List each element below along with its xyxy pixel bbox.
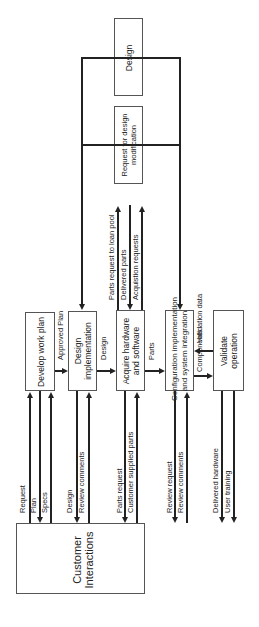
acquisition-requests-line xyxy=(141,211,143,310)
acquire-hardware-box: Acquire hardware and software xyxy=(116,310,145,391)
acquisition-requests-label: Acquistion requests xyxy=(132,235,140,300)
specs-line xyxy=(50,397,52,523)
design-impl-line1: Design xyxy=(73,311,83,391)
specs-label: Specs xyxy=(41,492,49,513)
approved-plan-label: Approved Plan xyxy=(57,311,65,360)
design-flow-label: Design xyxy=(66,490,74,513)
review-comments-2-arrow xyxy=(184,392,190,398)
acquire-line1: Acquire hardware xyxy=(121,311,131,391)
parts-line xyxy=(145,370,159,372)
parts-label: Parts xyxy=(148,342,156,360)
design-implementation-box: Design implementation xyxy=(68,311,97,391)
plan-arrow xyxy=(37,517,43,523)
delivered-hardware-arrow xyxy=(219,517,225,523)
customer-interactions-box: Customer Interactions xyxy=(16,523,145,594)
validate-operation-label: Validate operation xyxy=(219,311,239,391)
customer-interactions-label: Customer Interactions xyxy=(71,520,93,600)
loop-top-line xyxy=(81,57,181,59)
parts-request-label: Parts request xyxy=(116,468,124,513)
validate-line1: Validate xyxy=(219,311,229,391)
design-out-line xyxy=(97,370,110,372)
validate-line2: operation xyxy=(229,311,239,391)
loop-left-arrow xyxy=(79,304,85,310)
review-request-label: Review request xyxy=(166,461,174,513)
loop-right-arrow xyxy=(177,304,183,310)
design-out-label: Design xyxy=(100,337,108,360)
review-request-arrow xyxy=(172,517,178,523)
request-label: Request xyxy=(19,485,27,513)
loop-mid-line xyxy=(81,144,181,146)
review-comments-1-arrow xyxy=(86,392,92,398)
design-out-arrow xyxy=(110,368,116,374)
design-down-arrow xyxy=(74,517,80,523)
customer-supplied-parts-arrow xyxy=(134,392,140,398)
validate-operation-box: Validate operation xyxy=(213,310,244,391)
configuration-integration-box: Configuration implementation and system … xyxy=(165,310,194,391)
components-edge-arrow xyxy=(207,373,213,379)
review-comments-2-line xyxy=(186,397,188,523)
configuration-integration-label: Configuration implementation and system … xyxy=(170,301,190,401)
customer-supplied-parts-line xyxy=(136,397,138,523)
parts-request-loan-pool-label: Parts request to loan pool xyxy=(108,215,116,300)
delivered-parts-arrow xyxy=(127,304,133,310)
acquire-line2: and software xyxy=(131,311,141,391)
customer-label-line1: Customer xyxy=(71,520,83,600)
parts-request-arrow xyxy=(122,517,128,523)
user-training-arrow xyxy=(231,517,237,523)
review-comments-1-line xyxy=(88,397,90,523)
design-implementation-label: Design implementation xyxy=(73,311,93,391)
specs-arrow xyxy=(48,392,54,398)
customer-supplied-parts-label: Customer supplied parts xyxy=(127,432,135,513)
delivered-hardware-label: Delivered hardware xyxy=(212,448,220,513)
components-edge-line xyxy=(194,375,207,377)
config-line2: and system integration xyxy=(180,301,190,401)
customer-label-line2: Interactions xyxy=(83,520,95,600)
loop-left-line xyxy=(81,57,83,305)
approved-plan-arrow xyxy=(62,368,68,374)
develop-work-plan-box: Develop work plan xyxy=(25,312,55,391)
acquisition-requests-arrow xyxy=(139,206,145,212)
user-training-line xyxy=(233,391,235,517)
validation-data-label: Validation data xyxy=(196,294,204,343)
parts-arrow xyxy=(159,368,165,374)
config-line1: Configuration implementation xyxy=(170,301,180,401)
acquire-hardware-label: Acquire hardware and software xyxy=(121,311,141,391)
review-comments-1-label: Review comments xyxy=(78,452,86,513)
review-comments-2-label: Review comments xyxy=(177,452,185,513)
delivered-parts-label: Delivered parts xyxy=(120,250,128,300)
validation-data-arrow xyxy=(194,348,200,354)
plan-label: Plan xyxy=(30,498,38,513)
loop-right-line xyxy=(179,57,181,305)
validation-data-line xyxy=(200,350,213,352)
develop-work-plan-label: Develop work plan xyxy=(36,312,46,392)
design-impl-line2: implementation xyxy=(83,311,93,391)
user-training-label: User training xyxy=(224,470,232,513)
parts-request-loan-pool-arrow xyxy=(115,206,121,212)
request-arrow xyxy=(27,392,33,398)
